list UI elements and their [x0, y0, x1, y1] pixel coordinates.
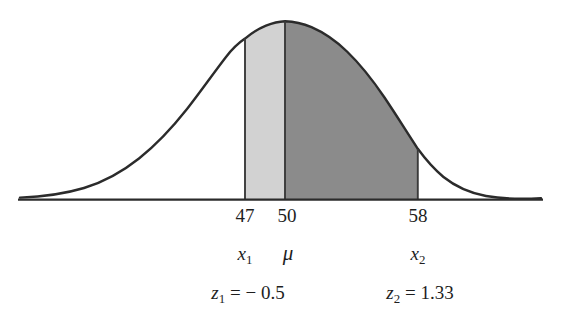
- shaded-region-right-band: [285, 21, 418, 199]
- normal-distribution-figure: 47 50 58 x1 μ x2 z1 = − 0.5 z2 = 1.33: [0, 0, 561, 319]
- z-score-label-z2-subscript: 2: [394, 291, 400, 306]
- z-score-label-z2-variable: z2: [386, 282, 400, 303]
- z-score-label-z1-equation: = − 0.5: [225, 282, 284, 303]
- variable-label-mu: μ: [283, 243, 294, 264]
- z-score-label-z2-equation: = 1.33: [400, 282, 453, 303]
- variable-label-x1: x1: [238, 244, 253, 263]
- variable-label-x1-subscript: 1: [246, 252, 252, 267]
- variable-label-x2-subscript: 2: [419, 252, 425, 267]
- variable-label-x2: x2: [411, 244, 426, 263]
- z-score-label-z2: z2 = 1.33: [386, 283, 453, 302]
- z-score-label-z1: z1 = − 0.5: [211, 283, 284, 302]
- x-tick-label-58: 58: [409, 206, 428, 225]
- shaded-region-left-band: [245, 21, 285, 199]
- z-score-label-z1-variable: z1: [211, 282, 225, 303]
- normal-curve-plot: [0, 0, 561, 319]
- z-score-label-z1-subscript: 1: [219, 291, 225, 306]
- x-tick-label-50: 50: [278, 206, 297, 225]
- x-tick-label-47: 47: [236, 206, 255, 225]
